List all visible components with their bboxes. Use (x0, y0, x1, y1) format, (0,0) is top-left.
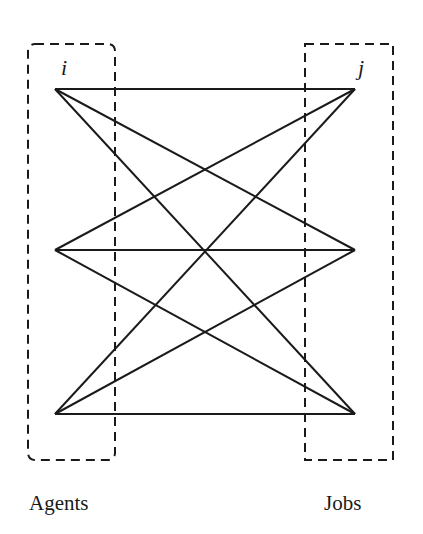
agent-index-symbol: i (61, 57, 67, 79)
jobs-group-box (305, 44, 393, 460)
jobs-label: Jobs (324, 493, 361, 514)
edges (55, 89, 355, 414)
job-index-symbol: j (358, 57, 364, 79)
diagram-canvas (0, 0, 423, 534)
agents-label: Agents (29, 493, 89, 514)
